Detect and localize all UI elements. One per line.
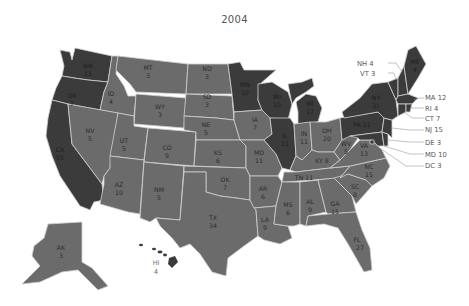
label-PA: PA 21 — [353, 121, 370, 128]
state-MI[interactable] — [288, 78, 322, 124]
callout-MA: MA 12 — [425, 94, 446, 102]
callout-DC: DC 3 — [425, 162, 441, 170]
label-NC: NC15 — [365, 163, 374, 178]
label-TX: TX34 — [208, 214, 218, 229]
callout-NJ: NJ 15 — [425, 126, 443, 134]
leader-MD — [384, 146, 424, 154]
label-OH: OH20 — [322, 127, 332, 142]
leader-NH — [388, 63, 402, 72]
callout-NH: NH 4 — [357, 60, 374, 68]
label-HI: HI4 — [153, 259, 160, 276]
callout-DE: DE 3 — [425, 139, 441, 147]
leader-NJ — [392, 128, 424, 130]
leader-CT — [404, 112, 424, 118]
callout-VT: VT 3 — [360, 70, 375, 78]
label-MO: MO11 — [254, 149, 264, 164]
callout-MD: MD 10 — [425, 151, 447, 159]
leader-DE — [388, 140, 424, 142]
label-TN: TN 11 — [294, 174, 313, 181]
label-GA: GA15 — [330, 200, 340, 215]
label-KY: KY 8 — [315, 157, 329, 164]
label-NY: NY31 — [372, 94, 381, 109]
label-MI: MI17 — [306, 100, 314, 115]
label-CA: CA55 — [56, 146, 65, 161]
state-MT[interactable] — [116, 56, 188, 94]
state-MA[interactable] — [396, 94, 418, 104]
state-CT[interactable] — [398, 104, 406, 116]
label-MN: MN10 — [240, 81, 250, 96]
callout-CT: CT 7 — [425, 115, 440, 123]
label-WI: WI10 — [273, 93, 281, 108]
state-DC[interactable] — [370, 140, 374, 144]
label-VA: VA13 — [360, 142, 369, 157]
state-AK[interactable] — [22, 222, 108, 290]
label-IN: IN11 — [300, 130, 308, 145]
us-electoral-map: WA11 OR7 CA55 ID4 NV5 MT3 WY3 UT5 CO9 AZ… — [0, 0, 469, 306]
callout-RI: RI 4 — [425, 105, 438, 113]
state-FL[interactable] — [306, 212, 372, 272]
label-AZ: AZ10 — [115, 181, 123, 196]
